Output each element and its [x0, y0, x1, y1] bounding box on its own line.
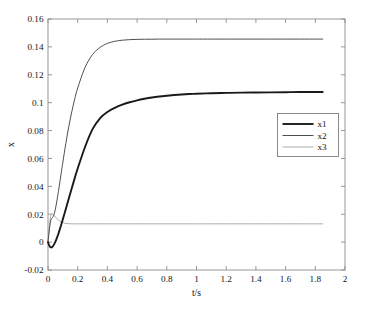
legend-label-x1: x1 [318, 119, 328, 129]
y-tick-label: 0.16 [27, 14, 43, 24]
x-tick-label: 0.8 [161, 274, 173, 284]
x-tick-label: 1.8 [310, 274, 322, 284]
legend: x1x2x3 [278, 114, 339, 157]
y-tick-label: 0 [39, 237, 44, 247]
legend-label-x2: x2 [318, 131, 328, 141]
y-tick-label: 0.08 [27, 126, 43, 136]
y-tick-label: 0.04 [27, 182, 43, 192]
y-axis-label: x [5, 142, 16, 147]
y-tick-label: 0.1 [32, 98, 44, 108]
x-tick-label: 1 [194, 274, 199, 284]
y-tick-label: 0.12 [27, 70, 43, 80]
y-tick-label: 0.06 [27, 154, 43, 164]
x-tick-label: 0.6 [131, 274, 143, 284]
x-tick-label: 1.2 [220, 274, 232, 284]
x-tick-label: 0.4 [102, 274, 114, 284]
x-tick-label: 1.6 [280, 274, 292, 284]
y-tick-label: 0.02 [27, 210, 43, 220]
x-tick-label: 0.2 [72, 274, 84, 284]
y-tick-label: 0.14 [27, 42, 43, 52]
x-axis-label: t/s [192, 287, 201, 298]
figure-canvas: 00.20.40.60.811.21.41.61.82 -0.0200.020.… [0, 0, 367, 310]
line-chart: 00.20.40.60.811.21.41.61.82 -0.0200.020.… [0, 0, 367, 310]
y-tick-label: -0.02 [24, 265, 44, 275]
x-tick-label: 1.4 [250, 274, 262, 284]
legend-label-x3: x3 [318, 142, 328, 152]
x-tick-label: 0 [46, 274, 51, 284]
x-tick-label: 2 [343, 274, 348, 284]
